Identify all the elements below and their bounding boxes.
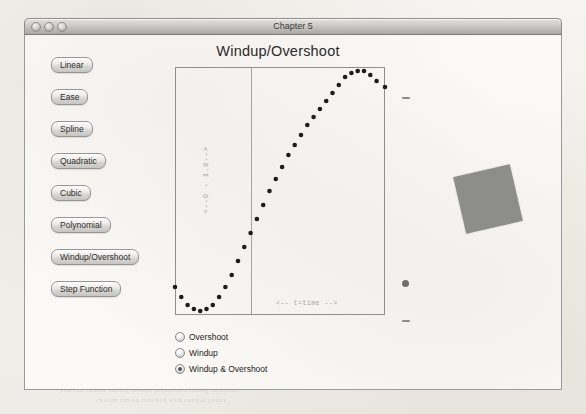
radio-option-label: Windup & Overshoot xyxy=(189,364,267,374)
easing-button-windup-overshoot[interactable]: Windup/Overshoot xyxy=(51,249,139,265)
easing-button-spline[interactable]: Spline xyxy=(51,121,93,137)
curve-point xyxy=(248,231,253,236)
window-content: LinearEaseSplineQuadraticCubicPolynomial… xyxy=(24,35,562,390)
curve-point xyxy=(185,303,190,308)
curve-point xyxy=(368,73,373,78)
easing-curve-dots xyxy=(149,35,409,321)
curve-point xyxy=(229,273,234,278)
easing-button-quadratic[interactable]: Quadratic xyxy=(51,153,106,169)
curve-point xyxy=(374,79,379,84)
curve-point xyxy=(349,71,354,76)
application-window: Chapter 5 LinearEaseSplineQuadraticCubic… xyxy=(24,18,562,390)
easing-curve-plot: Windup/Overshoot <--0 - 1.0--> <-- t=tim… xyxy=(171,43,403,333)
radio-option-overshoot[interactable]: Overshoot xyxy=(175,329,267,344)
curve-point xyxy=(211,303,216,308)
window-title: Chapter 5 xyxy=(25,21,561,31)
curve-point xyxy=(286,153,291,158)
curve-point xyxy=(362,69,367,74)
curve-point xyxy=(337,83,342,88)
curve-point xyxy=(280,165,285,170)
curve-point xyxy=(299,133,304,138)
window-titlebar[interactable]: Chapter 5 xyxy=(24,18,562,35)
curve-point xyxy=(324,99,329,104)
curve-point xyxy=(267,189,272,194)
curve-point xyxy=(305,123,310,128)
radio-option-windup-overshoot[interactable]: Windup & Overshoot xyxy=(175,361,267,376)
curve-point xyxy=(236,259,241,264)
curve-point xyxy=(292,143,297,148)
curve-point xyxy=(330,91,335,96)
radio-button-icon[interactable] xyxy=(175,364,185,374)
easing-button-step-function[interactable]: Step Function xyxy=(51,281,121,297)
animation-preview-pane xyxy=(395,55,545,325)
curve-point xyxy=(173,285,178,290)
easing-button-cubic[interactable]: Cubic xyxy=(51,185,91,201)
curve-point xyxy=(179,295,184,300)
bleed-through-line: custom timing function with control poin… xyxy=(96,396,336,404)
curve-point xyxy=(204,307,209,312)
easing-button-ease[interactable]: Ease xyxy=(51,89,88,105)
radio-button-icon[interactable] xyxy=(175,332,185,342)
curve-point xyxy=(311,115,316,120)
easing-button-linear[interactable]: Linear xyxy=(51,57,93,73)
curve-point xyxy=(274,177,279,182)
curve-point xyxy=(192,307,197,312)
curve-point xyxy=(343,75,348,80)
curve-point xyxy=(217,295,222,300)
curve-point xyxy=(383,85,388,90)
radio-button-icon[interactable] xyxy=(175,348,185,358)
track-mark-bottom xyxy=(402,320,410,322)
curve-point xyxy=(318,107,323,112)
easing-button-polynomial[interactable]: Polynomial xyxy=(51,217,111,233)
curve-point xyxy=(242,245,247,250)
animated-square[interactable] xyxy=(453,164,523,234)
curve-point xyxy=(198,309,203,314)
mode-radio-group: OvershootWindupWindup & Overshoot xyxy=(175,329,267,377)
radio-option-windup[interactable]: Windup xyxy=(175,345,267,360)
radio-option-label: Overshoot xyxy=(189,332,228,342)
track-marker-dot xyxy=(402,280,409,287)
curve-point xyxy=(255,217,260,222)
track-mark-top xyxy=(402,97,410,99)
curve-point xyxy=(223,285,228,290)
radio-option-label: Windup xyxy=(189,348,218,358)
curve-point xyxy=(355,69,360,74)
curve-point xyxy=(261,203,266,208)
